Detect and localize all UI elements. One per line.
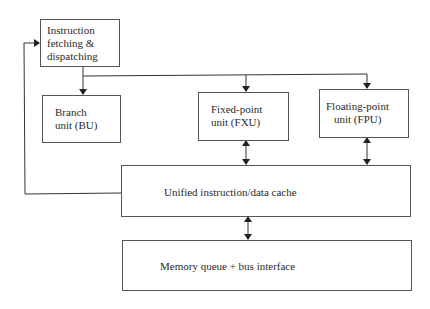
ifd-label-line-1: Instruction [47, 24, 95, 37]
bu-label-line-2: unit (BU) [55, 119, 97, 132]
fxu-label-line-2: unit (FXU) [211, 116, 260, 129]
memory-label: Memory queue + bus interface [160, 260, 295, 273]
fpu-label-line-1: Floating-point [326, 100, 389, 113]
ifd-label-line-3: dispatching [47, 50, 98, 63]
cache-label: Unified instruction/data cache [164, 186, 297, 199]
fixed-point-unit-block: Fixed-point unit (FXU) [198, 92, 289, 141]
memory-queue-bus-interface-block: Memory queue + bus interface [122, 240, 412, 291]
unified-cache-block: Unified instruction/data cache [121, 165, 411, 217]
floating-point-unit-block: Floating-point unit (FPU) [319, 89, 409, 138]
bu-label-line-1: Branch [55, 106, 87, 119]
dispatch-bus [83, 74, 367, 76]
ifd-label-line-2: fetching & [47, 37, 94, 50]
branch-unit-block: Branch unit (BU) [42, 95, 121, 143]
fxu-label-line-1: Fixed-point [211, 103, 262, 116]
fpu-label-line-2: unit (FPU) [334, 113, 381, 126]
instruction-fetch-dispatch-block: Instruction fetching & dispatching [40, 19, 120, 67]
